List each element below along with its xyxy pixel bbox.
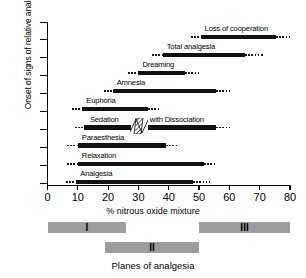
bar-dotted-right xyxy=(193,181,210,183)
x-tick-label-50: 50 xyxy=(193,191,205,203)
bar-dotted-left xyxy=(67,163,78,165)
x-tick-label-10: 10 xyxy=(72,191,84,203)
bar-label: Relaxation xyxy=(82,151,116,160)
x-tick-0 xyxy=(47,185,48,190)
x-tick-30 xyxy=(138,185,139,190)
bar-dotted-left xyxy=(152,54,163,56)
bar-solid xyxy=(82,107,147,111)
bar-dotted-left xyxy=(104,90,113,92)
bar-solid xyxy=(78,162,204,166)
bar-dotted-right xyxy=(216,90,231,92)
x-tick-60 xyxy=(229,185,230,190)
x-axis-title: % nitrous oxide mixture xyxy=(0,206,306,216)
bar-row: Paraesthesia xyxy=(0,134,306,148)
x-tick-40 xyxy=(168,185,169,190)
plane-III: III xyxy=(199,222,290,233)
x-tick-label-70: 70 xyxy=(254,191,266,203)
bar-dotted-right xyxy=(245,54,263,56)
x-tick-70 xyxy=(259,185,260,190)
plane-II: II xyxy=(105,242,199,253)
x-tick-80 xyxy=(289,185,290,190)
bar-row: Relaxation xyxy=(0,152,306,166)
bar-solid xyxy=(138,71,185,75)
bar-label: Paraesthesia xyxy=(82,133,125,142)
bar-row: Sedationwith Dissociation xyxy=(0,116,306,130)
bar-solid xyxy=(148,125,216,129)
y-tick xyxy=(40,22,47,23)
bar-label-secondary: with Dissociation xyxy=(150,115,204,124)
x-tick-50 xyxy=(198,185,199,190)
bar-dotted-left xyxy=(72,108,83,110)
bar-label: Analgesia xyxy=(80,169,112,178)
bar-row: Loss of cooperation xyxy=(0,25,306,39)
x-tick-label-0: 0 xyxy=(44,191,50,203)
bar-label: Total analgesia xyxy=(167,42,215,51)
bar-dotted-right xyxy=(216,127,233,129)
x-tick-label-20: 20 xyxy=(102,191,114,203)
bar-row: Dreaming xyxy=(0,61,306,75)
bar-dotted-left xyxy=(66,181,77,183)
bar-solid xyxy=(201,35,277,39)
x-tick-20 xyxy=(108,185,109,190)
bar-dotted-right xyxy=(148,108,160,110)
bar-solid xyxy=(78,143,166,147)
bar-dotted-left xyxy=(128,72,139,74)
bar-dotted-left xyxy=(75,127,84,129)
bar-label: Dreaming xyxy=(142,60,174,69)
bar-dotted-left xyxy=(67,145,78,147)
bar-solid xyxy=(163,53,245,57)
bar-row: Analgesia xyxy=(0,170,306,184)
plane-I: I xyxy=(48,222,127,233)
bar-dotted-right xyxy=(185,72,200,74)
bar-row: Euphoria xyxy=(0,97,306,111)
x-tick-label-60: 60 xyxy=(223,191,235,203)
x-tick-label-30: 30 xyxy=(132,191,144,203)
bar-dotted-right xyxy=(276,36,291,38)
bar-label: Loss of cooperation xyxy=(205,24,268,33)
bar-label: Amnesia xyxy=(117,78,146,87)
relative-analgesia-chart: Onset of signs of relative analgesia Los… xyxy=(0,0,306,278)
bar-label: Sedation xyxy=(90,115,119,124)
bar-dotted-right xyxy=(166,145,180,147)
bar-row: Amnesia xyxy=(0,79,306,93)
x-tick-10 xyxy=(77,185,78,190)
bar-break-zigzag-icon xyxy=(130,118,148,134)
bar-dotted-right xyxy=(204,163,218,165)
bar-row: Total analgesia xyxy=(0,43,306,57)
bar-dotted-left xyxy=(191,36,200,38)
planes-title: Planes of analgesia xyxy=(0,260,306,271)
bar-solid xyxy=(84,125,131,129)
bar-solid xyxy=(113,89,216,93)
bar-label: Euphoria xyxy=(86,96,115,105)
bar-solid xyxy=(76,180,193,184)
x-tick-label-40: 40 xyxy=(163,191,175,203)
x-tick-label-80: 80 xyxy=(284,191,296,203)
